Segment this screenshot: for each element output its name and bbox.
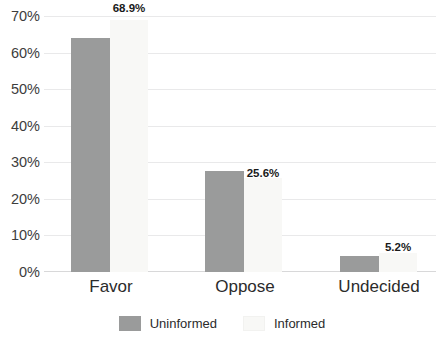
bar-undecided-uninformed [340, 256, 379, 273]
plot-area: 68.9% 25.6% 5.2% [44, 16, 436, 272]
legend-swatch-icon-informed [243, 316, 265, 331]
bar-oppose-uninformed [205, 171, 244, 272]
legend-label-informed: Informed [274, 317, 325, 330]
legend-item-informed[interactable]: Informed [243, 316, 325, 331]
y-tick-label-50: 50% [0, 82, 40, 97]
y-tick-label-40: 40% [0, 118, 40, 133]
chart-legend: Uninformed Informed [0, 316, 444, 331]
x-tick-label-undecided: Undecided [327, 276, 431, 298]
y-axis: 70% 60% 50% 40% 30% 20% 10% 0% [0, 16, 40, 272]
bar-favor-informed [110, 20, 148, 272]
legend-swatch-icon-uninformed [119, 316, 141, 331]
data-label-favor-informed: 68.9% [107, 3, 151, 15]
x-tick-label-oppose: Oppose [193, 276, 297, 298]
data-label-oppose-informed: 25.6% [241, 168, 285, 180]
bar-chart: 70% 60% 50% 40% 30% 20% 10% 0% 68.9% 25.… [0, 0, 444, 343]
y-tick-label-60: 60% [0, 45, 40, 60]
x-axis: Favor Oppose Undecided [44, 276, 436, 302]
y-tick-label-10: 10% [0, 228, 40, 243]
bar-oppose-informed [244, 178, 282, 272]
data-label-undecided-informed: 5.2% [376, 242, 420, 254]
y-tick-label-0: 0% [0, 265, 40, 280]
gridline-70 [44, 16, 436, 17]
y-tick-label-70: 70% [0, 9, 40, 24]
y-tick-label-20: 20% [0, 192, 40, 207]
y-tick-label-30: 30% [0, 155, 40, 170]
bar-favor-uninformed [71, 38, 110, 272]
legend-label-uninformed: Uninformed [150, 317, 217, 330]
legend-item-uninformed[interactable]: Uninformed [119, 316, 217, 331]
x-tick-label-favor: Favor [59, 276, 163, 298]
bar-undecided-informed [379, 253, 417, 272]
